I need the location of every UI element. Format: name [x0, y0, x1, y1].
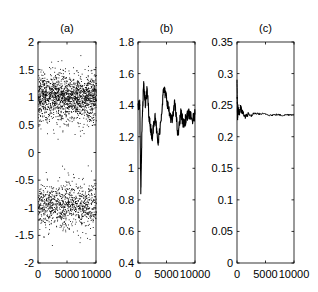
- y-tick-label: 1.4: [119, 99, 134, 111]
- y-tick-label: 2: [28, 36, 34, 48]
- y-tick-label: 0: [28, 147, 34, 159]
- y-tick-label: 0.05: [212, 225, 233, 237]
- y-tick-label: 1: [28, 91, 34, 103]
- y-tick-label: 1.5: [19, 64, 34, 76]
- panel-a: (a)-2-1.5-1-0.500.511.520500010000: [15, 22, 111, 280]
- y-tick-label: 0.4: [119, 257, 134, 269]
- x-tick-label: 10000: [279, 268, 310, 280]
- y-tick-label: 0.8: [119, 194, 134, 206]
- data-line: [138, 82, 195, 194]
- y-tick-label: 0.2: [218, 131, 233, 143]
- x-tick-label: 10000: [180, 268, 211, 280]
- panel-c: (c)00.050.10.150.20.250.30.350500010000: [212, 22, 310, 280]
- x-tick-label: 10000: [81, 268, 112, 280]
- scatter-points: [38, 55, 97, 246]
- x-tick-label: 0: [135, 268, 141, 280]
- y-tick-label: 0.3: [218, 68, 233, 80]
- panel-title: (c): [259, 22, 272, 34]
- y-tick-label: -1.5: [15, 229, 34, 241]
- y-tick-label: 1.2: [119, 131, 134, 143]
- y-tick-label: 0.15: [212, 162, 233, 174]
- y-tick-label: 1: [128, 162, 134, 174]
- y-tick-label: 0: [227, 257, 233, 269]
- y-tick-label: 1.8: [119, 36, 134, 48]
- y-tick-label: -2: [24, 257, 34, 269]
- x-tick-label: 0: [234, 268, 240, 280]
- axes-box: [138, 42, 195, 263]
- y-tick-label: 0.5: [19, 119, 34, 131]
- y-tick-label: 0.1: [218, 194, 233, 206]
- axes-box: [38, 42, 96, 263]
- y-tick-label: -0.5: [15, 174, 34, 186]
- axes-box: [237, 42, 294, 263]
- panel-title: (a): [60, 22, 73, 34]
- y-tick-label: -1: [24, 202, 34, 214]
- x-tick-label: 5000: [253, 268, 277, 280]
- panel-b: (b)0.40.60.811.21.41.61.80500010000: [119, 22, 211, 280]
- y-tick-label: 0.6: [119, 225, 134, 237]
- data-line: [237, 80, 294, 120]
- y-tick-label: 1.6: [119, 68, 134, 80]
- x-tick-label: 5000: [154, 268, 178, 280]
- y-tick-label: 0.35: [212, 36, 233, 48]
- x-tick-label: 5000: [55, 268, 79, 280]
- y-tick-label: 0.25: [212, 99, 233, 111]
- figure: (a)-2-1.5-1-0.500.511.520500010000(b)0.4…: [0, 0, 318, 292]
- panel-title: (b): [160, 22, 173, 34]
- x-tick-label: 0: [35, 268, 41, 280]
